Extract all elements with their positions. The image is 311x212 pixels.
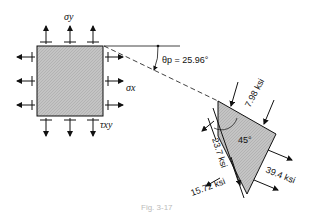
sigma-x-label: σx [126, 82, 136, 93]
figure-caption: Fig. 3-17 [141, 203, 173, 212]
angle-arc [154, 46, 158, 70]
stress-39-4-label: 39.4 ksi [264, 165, 297, 186]
tau-xy-label: τxy [100, 119, 113, 130]
stress-diagram: σy σx τxy θp = 25.96° 45° 7.98 ksi 23.7 … [0, 0, 311, 212]
sigma-y-label: σy [64, 11, 74, 22]
stress-7-98-label: 7.98 ksi [243, 77, 266, 109]
theta-p-label: θp = 25.96° [162, 55, 209, 65]
stress-15-72-label: 15.72 ksi [189, 176, 226, 198]
angle-45-label: 45° [238, 135, 252, 145]
